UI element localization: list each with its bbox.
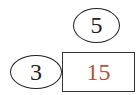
product-box-label: 15	[87, 59, 111, 86]
product-box: 15	[62, 52, 135, 92]
left-ellipse-node: 3	[10, 55, 62, 89]
left-node-label: 3	[30, 59, 42, 86]
top-node-label: 5	[91, 12, 103, 39]
top-ellipse-node: 5	[73, 8, 120, 43]
